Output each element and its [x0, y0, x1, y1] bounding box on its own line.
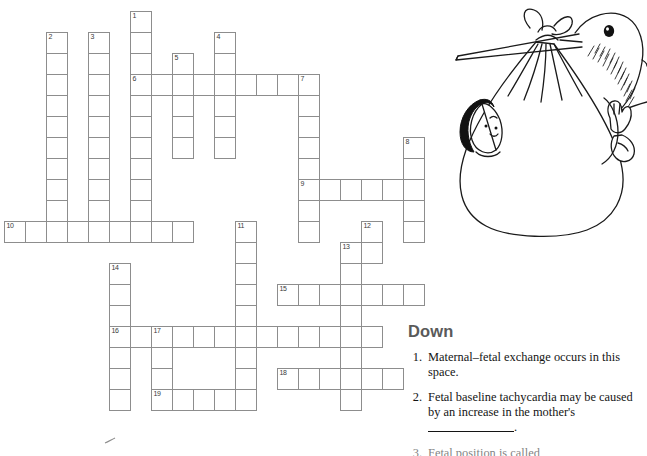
crossword-cell[interactable]	[151, 221, 173, 243]
crossword-cell[interactable]	[46, 179, 68, 201]
crossword-cell[interactable]	[361, 242, 383, 264]
crossword-cell[interactable]	[235, 305, 257, 327]
crossword-cell[interactable]: 17	[151, 326, 173, 348]
crossword-cell[interactable]	[403, 200, 425, 222]
crossword-cell[interactable]	[172, 95, 194, 117]
crossword-cell[interactable]	[256, 74, 278, 96]
crossword-cell[interactable]	[319, 284, 341, 306]
crossword-cell[interactable]	[214, 137, 236, 159]
crossword-cell[interactable]	[88, 137, 110, 159]
crossword-cell[interactable]	[361, 284, 383, 306]
crossword-cell[interactable]	[298, 137, 320, 159]
crossword-cell[interactable]	[109, 347, 131, 369]
crossword-cell[interactable]	[340, 284, 362, 306]
crossword-cell[interactable]	[46, 116, 68, 138]
crossword-cell[interactable]	[298, 221, 320, 243]
crossword-cell[interactable]: 2	[46, 32, 68, 54]
crossword-cell[interactable]	[214, 326, 236, 348]
crossword-cell[interactable]	[88, 179, 110, 201]
crossword-cell[interactable]	[319, 368, 341, 390]
crossword-cell[interactable]	[214, 389, 236, 411]
crossword-cell[interactable]	[214, 116, 236, 138]
crossword-cell[interactable]	[130, 179, 152, 201]
crossword-cell[interactable]	[130, 326, 152, 348]
crossword-cell[interactable]	[88, 221, 110, 243]
crossword-cell[interactable]	[25, 221, 47, 243]
crossword-cell[interactable]	[88, 200, 110, 222]
crossword-cell[interactable]	[403, 179, 425, 201]
crossword-cell[interactable]	[319, 179, 341, 201]
crossword-cell[interactable]	[235, 242, 257, 264]
crossword-cell[interactable]: 5	[172, 53, 194, 75]
crossword-cell[interactable]	[361, 368, 383, 390]
crossword-cell[interactable]	[130, 116, 152, 138]
crossword-cell[interactable]: 19	[151, 389, 173, 411]
crossword-cell[interactable]: 18	[277, 368, 299, 390]
crossword-cell[interactable]	[340, 263, 362, 285]
crossword-cell[interactable]	[340, 305, 362, 327]
crossword-cell[interactable]	[46, 137, 68, 159]
crossword-cell[interactable]	[298, 95, 320, 117]
crossword-cell[interactable]	[340, 389, 362, 411]
crossword-cell[interactable]	[277, 326, 299, 348]
crossword-cell[interactable]	[235, 284, 257, 306]
crossword-cell[interactable]	[109, 221, 131, 243]
crossword-cell[interactable]	[382, 284, 404, 306]
crossword-cell[interactable]	[319, 326, 341, 348]
crossword-cell[interactable]	[130, 137, 152, 159]
crossword-cell[interactable]	[214, 53, 236, 75]
crossword-cell[interactable]: 16	[109, 326, 131, 348]
crossword-cell[interactable]: 15	[277, 284, 299, 306]
crossword-cell[interactable]: 11	[235, 221, 257, 243]
crossword-cell[interactable]: 9	[298, 179, 320, 201]
crossword-cell[interactable]	[88, 158, 110, 180]
crossword-cell[interactable]	[193, 389, 215, 411]
crossword-cell[interactable]	[340, 347, 362, 369]
crossword-cell[interactable]	[235, 74, 257, 96]
crossword-cell[interactable]: 14	[109, 263, 131, 285]
crossword-cell[interactable]	[235, 326, 257, 348]
crossword-cell[interactable]	[298, 368, 320, 390]
crossword-cell[interactable]	[214, 95, 236, 117]
crossword-cell[interactable]	[403, 284, 425, 306]
crossword-cell[interactable]	[130, 200, 152, 222]
crossword-cell[interactable]	[88, 95, 110, 117]
crossword-cell[interactable]	[151, 74, 173, 96]
crossword-cell[interactable]	[235, 389, 257, 411]
crossword-cell[interactable]	[382, 368, 404, 390]
crossword-cell[interactable]: 8	[403, 137, 425, 159]
crossword-cell[interactable]: 13	[340, 242, 362, 264]
crossword-cell[interactable]	[193, 326, 215, 348]
crossword-cell[interactable]	[403, 221, 425, 243]
crossword-cell[interactable]	[172, 389, 194, 411]
crossword-cell[interactable]	[277, 74, 299, 96]
crossword-cell[interactable]	[109, 305, 131, 327]
crossword-cell[interactable]	[172, 137, 194, 159]
crossword-cell[interactable]	[235, 263, 257, 285]
crossword-cell[interactable]	[298, 326, 320, 348]
crossword-cell[interactable]	[130, 32, 152, 54]
crossword-cell[interactable]	[298, 116, 320, 138]
crossword-cell[interactable]	[130, 53, 152, 75]
crossword-cell[interactable]	[88, 53, 110, 75]
crossword-cell[interactable]	[130, 221, 152, 243]
crossword-cell[interactable]	[298, 284, 320, 306]
crossword-cell[interactable]: 4	[214, 32, 236, 54]
crossword-cell[interactable]	[109, 368, 131, 390]
crossword-cell[interactable]: 3	[88, 32, 110, 54]
crossword-cell[interactable]	[340, 179, 362, 201]
crossword-cell[interactable]	[46, 158, 68, 180]
crossword-cell[interactable]	[193, 74, 215, 96]
crossword-cell[interactable]	[172, 116, 194, 138]
crossword-cell[interactable]	[340, 326, 362, 348]
crossword-cell[interactable]	[109, 284, 131, 306]
crossword-cell[interactable]	[88, 116, 110, 138]
crossword-cell[interactable]	[172, 326, 194, 348]
crossword-grid[interactable]: 12345678910111213141516171819	[0, 0, 410, 456]
crossword-cell[interactable]: 7	[298, 74, 320, 96]
crossword-cell[interactable]	[130, 158, 152, 180]
crossword-cell[interactable]	[46, 200, 68, 222]
crossword-cell[interactable]	[88, 74, 110, 96]
crossword-cell[interactable]	[382, 179, 404, 201]
crossword-cell[interactable]: 10	[4, 221, 26, 243]
